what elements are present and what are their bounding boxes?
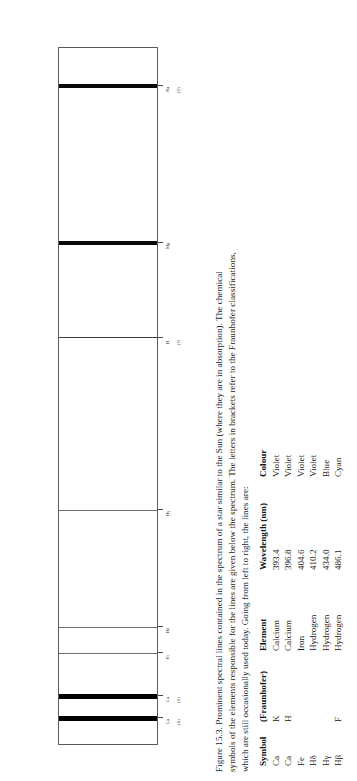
table-cell: 404.6 xyxy=(296,550,306,570)
table-header-colour: Colour xyxy=(258,450,268,477)
table-cell: Blue xyxy=(321,460,331,477)
caption-line-1: Figure 15.3. Prominent spectral lines co… xyxy=(214,271,224,772)
table-cell: Hydrogen xyxy=(333,615,343,651)
table-header-element: Element xyxy=(258,619,268,651)
table-cell: 393.4 xyxy=(271,550,281,570)
table-cell: Ca xyxy=(271,756,281,766)
table-cell: Hydrogen xyxy=(308,615,318,651)
table-cell: Ca xyxy=(283,756,293,766)
table-cell: 410.2 xyxy=(308,550,318,570)
table-cell: Hydrogen xyxy=(321,615,331,651)
table-cell: Hγ xyxy=(321,755,331,766)
table-cell: F xyxy=(333,717,343,722)
figure-caption-and-table: Figure 15.3. Prominent spectral lines co… xyxy=(0,0,357,781)
table-cell: Violet xyxy=(308,455,318,477)
table-cell: 434.0 xyxy=(321,550,331,570)
caption-line-3: which are still occasionally used today.… xyxy=(240,486,250,772)
caption-line-2: symbols of the elements responsible for … xyxy=(227,252,237,772)
table-cell: Fe xyxy=(296,757,306,766)
table-cell: 396.8 xyxy=(283,550,293,570)
table-cell: Calcium xyxy=(271,620,281,651)
table-header-fraunhofer: (Fraunhofer) xyxy=(258,671,268,722)
table-cell: H xyxy=(283,715,293,722)
table-header-wavelength: Wavelength (nm) xyxy=(258,503,268,570)
table-cell: Violet xyxy=(283,455,293,477)
table-cell: Cyan xyxy=(333,458,343,477)
table-cell: Violet xyxy=(271,455,281,477)
table-cell: Violet xyxy=(296,455,306,477)
table-cell: Calcium xyxy=(283,620,293,651)
table-cell: Iron xyxy=(296,636,306,651)
table-cell: K xyxy=(271,715,281,722)
table-header-symbol: Symbol xyxy=(258,737,268,766)
table-cell: 486.1 xyxy=(333,550,343,570)
table-cell: Hβ xyxy=(333,755,343,766)
table-cell: Hδ xyxy=(308,755,318,766)
